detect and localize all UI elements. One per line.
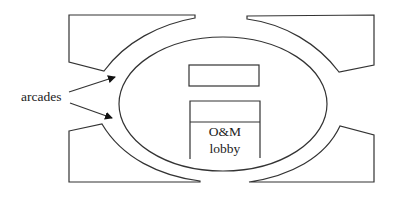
building-top-left [69, 15, 195, 71]
lobby-label: O&M lobby [190, 123, 260, 157]
building-bottom-right [249, 126, 374, 182]
arrow-lower-arcade [70, 103, 112, 118]
arrow-upper-arcade [69, 77, 115, 92]
arcades-label: arcades [21, 90, 61, 104]
lobby-label-line1: O&M [190, 123, 260, 140]
upper-building-block [189, 65, 259, 86]
building-top-right [247, 15, 374, 72]
building-bottom-left [69, 124, 200, 182]
lobby-label-line2: lobby [190, 140, 260, 157]
